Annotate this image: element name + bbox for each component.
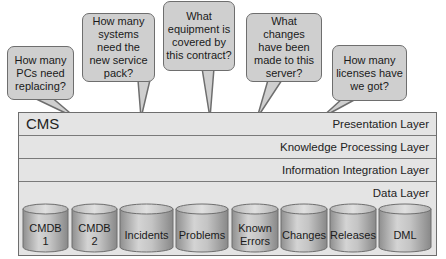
data-store-releases: Releases — [329, 203, 377, 253]
information-integration-layer: Information Integration Layer — [19, 159, 436, 182]
layer-label: Data Layer — [373, 187, 429, 199]
data-store-label: Known Errors — [231, 217, 279, 253]
question-text: How many PCs need replacing? — [13, 54, 69, 93]
cms-title: CMS — [26, 115, 59, 132]
data-store-changes: Changes — [280, 203, 328, 253]
layer-label: Presentation Layer — [332, 118, 429, 130]
layer-label: Information Integration Layer — [282, 164, 429, 176]
question-bubble-changes: What changes have been made to this serv… — [246, 13, 322, 82]
layer-label: Knowledge Processing Layer — [280, 141, 429, 153]
question-text: What equipment is covered by this contra… — [166, 10, 232, 62]
data-store-label: CMDB 2 — [71, 217, 118, 253]
data-store-cmdb-1: CMDB 1 — [22, 203, 69, 253]
data-store-label: Releases — [329, 217, 377, 253]
data-store-problems: Problems — [175, 203, 229, 253]
data-store-known-errors: Known Errors — [231, 203, 279, 253]
data-store-label: CMDB 1 — [22, 217, 69, 253]
data-store-label: Changes — [280, 217, 328, 253]
question-text: How many licenses have we got? — [336, 54, 404, 93]
question-text: What changes have been made to this serv… — [251, 15, 317, 80]
data-store-label: DML — [378, 217, 432, 253]
presentation-layer: CMS Presentation Layer — [19, 113, 436, 136]
question-bubble-pcs: How many PCs need replacing? — [7, 46, 74, 100]
data-store-cmdb-2: CMDB 2 — [71, 203, 118, 253]
data-store-label: Problems — [175, 217, 229, 253]
question-text: How many systems need the new service pa… — [86, 15, 152, 80]
data-store-dml: DML — [378, 203, 432, 253]
question-bubble-licenses: How many licenses have we got? — [332, 45, 407, 101]
data-store-incidents: Incidents — [119, 203, 174, 253]
knowledge-processing-layer: Knowledge Processing Layer — [19, 136, 436, 159]
question-bubble-equipment: What equipment is covered by this contra… — [163, 1, 235, 71]
data-store-label: Incidents — [119, 217, 174, 253]
question-bubble-service-pack: How many systems need the new service pa… — [82, 13, 155, 82]
